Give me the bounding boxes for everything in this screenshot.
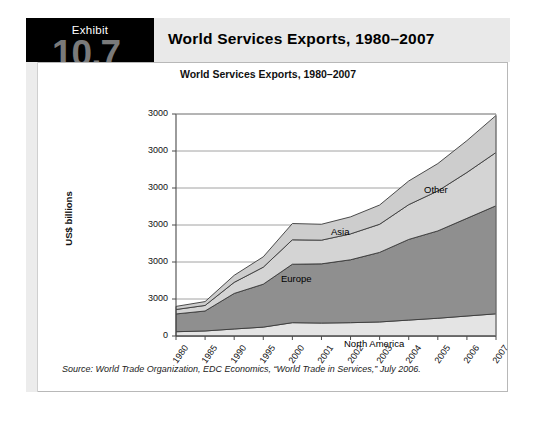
y-axis-tick-label: 3000 [122,145,168,155]
source-note: Source: World Trade Organization, EDC Ec… [62,364,421,374]
y-axis-tick-label: 3000 [122,108,168,118]
y-axis-tick-label: 3000 [122,256,168,266]
chart-plot-area: US$ billions 030003000300030003000300019… [26,18,510,393]
exhibit-card: World Services Exports, 1980–2007 Exhibi… [26,18,510,393]
y-axis-tick-label: 0 [122,330,168,340]
series-label-europe: Europe [281,273,312,284]
area-chart-svg [26,18,510,393]
series-label-asia: Asia [331,226,349,237]
y-axis-tick-label: 3000 [122,182,168,192]
y-axis-tick-label: 3000 [122,293,168,303]
y-axis-title: US$ billions [63,159,74,279]
series-label-other: Other [424,184,448,195]
series-label-north-america: North America [344,338,404,349]
y-axis-tick-label: 3000 [122,219,168,229]
